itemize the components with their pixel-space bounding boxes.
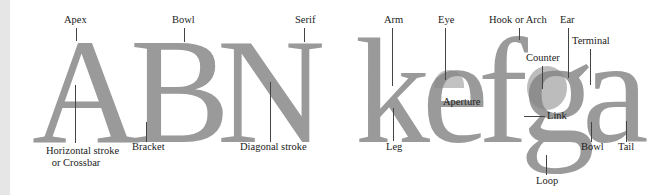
label-leg: Leg bbox=[386, 141, 402, 153]
label-counter: Counter bbox=[526, 52, 560, 64]
label-crossbar-line1: Horizontal stroke bbox=[46, 145, 106, 157]
leader-crossbar bbox=[75, 85, 76, 143]
label-serif: Serif bbox=[295, 14, 315, 26]
leader-bowl-a bbox=[591, 122, 592, 142]
leader-bracket bbox=[146, 122, 147, 142]
leader-counter bbox=[542, 66, 543, 89]
leader-eye bbox=[445, 28, 446, 80]
leader-loop bbox=[546, 155, 547, 175]
leader-bowl-b bbox=[184, 28, 185, 42]
counter-highlight bbox=[527, 66, 567, 110]
label-eye: Eye bbox=[438, 14, 454, 26]
label-link: Link bbox=[547, 110, 567, 122]
label-crossbar-line2: or Crossbar bbox=[46, 157, 106, 169]
label-bracket: Bracket bbox=[132, 141, 165, 153]
label-arm: Arm bbox=[384, 14, 403, 26]
label-crossbar: Horizontal stroke or Crossbar bbox=[46, 145, 106, 169]
leader-serif bbox=[304, 28, 305, 42]
label-aperture: Aperture bbox=[443, 96, 480, 108]
leader-terminal bbox=[590, 49, 591, 85]
leader-leg bbox=[393, 108, 394, 141]
leader-apex bbox=[76, 28, 77, 41]
label-tail: Tail bbox=[618, 141, 634, 153]
label-hook: Hook or Arch bbox=[489, 14, 547, 26]
leader-ear bbox=[568, 28, 569, 78]
leader-hook bbox=[519, 28, 520, 40]
label-terminal: Terminal bbox=[572, 35, 610, 47]
leader-diagonal bbox=[270, 82, 271, 142]
left-edge-strip bbox=[0, 0, 10, 195]
leader-link bbox=[524, 116, 545, 117]
label-bowl-b: Bowl bbox=[172, 14, 195, 26]
leader-arm bbox=[392, 28, 393, 86]
label-loop: Loop bbox=[536, 175, 558, 187]
label-ear: Ear bbox=[560, 14, 575, 26]
label-apex: Apex bbox=[64, 14, 87, 26]
label-bowl-a: Bowl bbox=[581, 141, 604, 153]
leader-tail bbox=[626, 121, 627, 142]
label-diagonal: Diagonal stroke bbox=[240, 141, 307, 153]
glyph-A: A bbox=[32, 16, 140, 166]
